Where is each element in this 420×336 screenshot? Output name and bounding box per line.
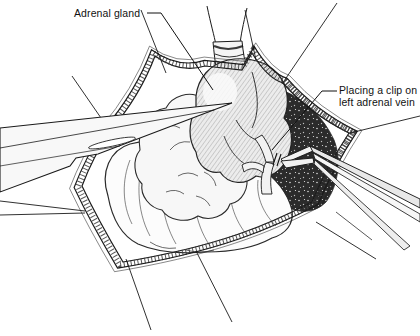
surgical-illustration-drawing: [0, 0, 420, 336]
surgical-illustration-figure: Adrenal gland Placing a clip on left adr…: [0, 0, 420, 336]
clip-placement-label-line2: left adrenal vein: [339, 96, 417, 108]
adrenal-gland-shape: [190, 59, 291, 183]
clip-placement-label: Placing a clip on left adrenal vein: [339, 84, 417, 108]
clip-placement-label-line1: Placing a clip on: [339, 84, 417, 96]
adrenal-gland-label: Adrenal gland: [74, 7, 140, 19]
